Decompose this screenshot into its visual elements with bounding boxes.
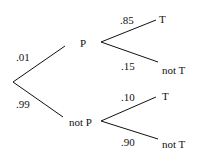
outcome-P-notT: not T (162, 64, 186, 76)
node-notP: not P (69, 116, 92, 128)
branch-P-notT (101, 42, 158, 62)
prob-notP-notT: .90 (121, 136, 135, 148)
node-P: P (80, 37, 86, 49)
outcome-P-T: T (159, 13, 166, 25)
outcome-notP-notT: not T (162, 138, 186, 150)
prob-notP-T: .10 (121, 91, 135, 103)
prob-P-notT: .15 (121, 60, 135, 72)
outcome-notP-T: T (162, 90, 169, 102)
prob-P-T: .85 (120, 14, 134, 26)
prob-notP: .99 (16, 98, 30, 110)
prob-P: .01 (16, 51, 30, 63)
probability-tree: .01 .99 P not P .85 .15 T not T .10 .90 … (0, 0, 200, 153)
